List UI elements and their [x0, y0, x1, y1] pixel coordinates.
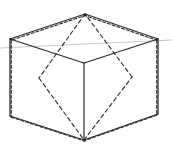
rhombus-edge-rhombus_left-bottom — [39, 78, 84, 140]
outer-edge-right_bottom-bottom — [84, 114, 158, 140]
outer-dashed-edge-top-right_top — [84, 15, 157, 40]
outer-edge-left_bottom-bottom — [10, 116, 84, 140]
outer-edge-top-left_top — [10, 14, 85, 39]
cube-diagram — [0, 0, 172, 155]
outer-dashed-edge-left_bottom-bottom — [11, 117, 85, 141]
dashed-rhombus — [39, 14, 132, 140]
cube-inner-edges — [10, 39, 158, 140]
outer-dashed-edge-right_bottom-bottom — [83, 115, 157, 141]
outer-edge-top-right_top — [85, 14, 158, 39]
inner-edge-left_top-center — [10, 39, 84, 63]
rhombus-edge-bottom-rhombus_right — [84, 77, 132, 140]
